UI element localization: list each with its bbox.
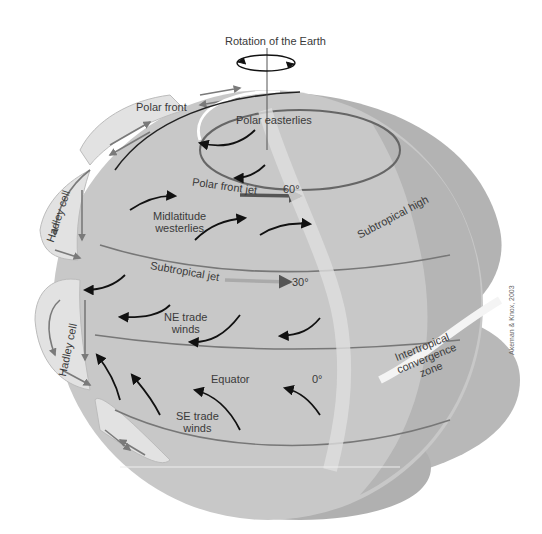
label-rotation: Rotation of the Earth (225, 35, 326, 47)
image-credit: Akeman & Knox, 2003 (508, 285, 515, 355)
atmospheric-circulation-diagram: Rotation of the Earth Polar front Polar … (0, 0, 542, 534)
label-equator: Equator (211, 373, 250, 385)
label-polar-front: Polar front (136, 101, 187, 113)
label-lat-0: 0° (312, 373, 323, 385)
label-lat-60: 60° (283, 183, 300, 195)
label-se-trade-winds: SE trade winds (176, 410, 219, 434)
rotation-ellipse (237, 55, 295, 71)
label-ne-trade-winds: NE trade winds (164, 311, 207, 335)
label-polar-easterlies: Polar easterlies (236, 114, 312, 126)
globe-illustration (0, 0, 542, 534)
label-lat-30: 30° (292, 276, 309, 288)
label-midlatitude-westerlies: Midlatitude westerlies (153, 210, 206, 234)
subtropical-jet-arrow (225, 280, 290, 282)
